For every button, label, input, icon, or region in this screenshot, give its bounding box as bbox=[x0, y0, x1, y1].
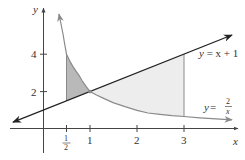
x-tick-label-2: 2 bbox=[134, 134, 140, 146]
x-tick-label-half-num: 1 bbox=[64, 134, 68, 143]
y-tick-label-4: 4 bbox=[31, 48, 37, 60]
x-tick-label-1: 1 bbox=[87, 134, 93, 146]
x-axis-label: x bbox=[232, 135, 238, 147]
y-tick-label-2: 2 bbox=[31, 86, 37, 98]
x-tick-label-3: 3 bbox=[181, 134, 187, 146]
curve-equation-num: 2 bbox=[226, 97, 230, 106]
curve-equation-lhs: y bbox=[203, 101, 209, 113]
chart: y x 4 2 1 2 1 2 3 y = x + 1 y = 2 x bbox=[0, 0, 245, 160]
line-equation-rhs: = x + 1 bbox=[204, 47, 238, 59]
curve-equation-den: x bbox=[225, 107, 230, 116]
intersection-point bbox=[88, 90, 92, 94]
y-axis-label: y bbox=[32, 3, 38, 15]
x-tick-label-half-den: 2 bbox=[64, 143, 68, 152]
curve-equation-eq: = bbox=[210, 101, 216, 113]
line-equation-label: y = x + 1 bbox=[198, 47, 238, 59]
